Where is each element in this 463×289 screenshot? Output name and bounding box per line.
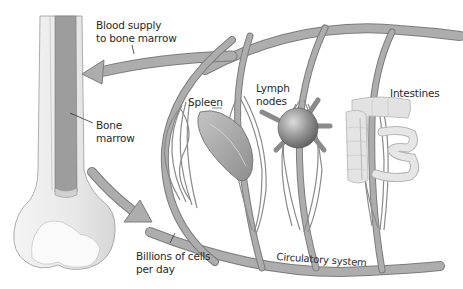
bone-marrow-label-line2: marrow bbox=[96, 132, 135, 145]
blood-supply-label-line1: Blood supply bbox=[96, 19, 177, 32]
blood-supply-label: Blood supply to bone marrow bbox=[96, 19, 177, 44]
intestines bbox=[346, 97, 415, 183]
lymph-nodes-label-line2: nodes bbox=[256, 95, 290, 108]
diagram-canvas: Blood supply to bone marrow Bone marrow … bbox=[0, 0, 463, 289]
billions-label-line1: Billions of cells bbox=[136, 250, 210, 263]
blood-supply-label-line2: to bone marrow bbox=[96, 32, 177, 45]
spleen-label: Spleen bbox=[188, 96, 223, 109]
billions-label-line2: per day bbox=[136, 263, 210, 276]
spleen bbox=[198, 108, 253, 181]
diagram-svg bbox=[0, 0, 463, 289]
bone-marrow-cavity bbox=[55, 16, 77, 194]
intestines-label: Intestines bbox=[390, 87, 439, 100]
spleen-label-text: Spleen bbox=[188, 96, 223, 108]
bone-marrow-label-line1: Bone bbox=[96, 119, 135, 132]
intestines-label-text: Intestines bbox=[390, 87, 439, 99]
bone-marrow-label: Bone marrow bbox=[96, 119, 135, 144]
billions-label: Billions of cells per day bbox=[136, 250, 210, 275]
lymph-nodes-label-line1: Lymph bbox=[256, 82, 290, 95]
blood-supply-arrowhead bbox=[82, 60, 104, 84]
lymph-nodes-label: Lymph nodes bbox=[256, 82, 290, 107]
